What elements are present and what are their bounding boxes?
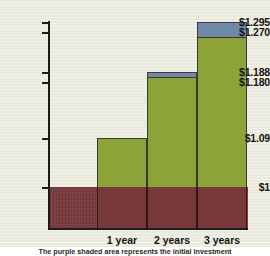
bar-3-years[interactable]	[197, 22, 247, 228]
x-tick-label-2-years: 2 years	[147, 234, 197, 246]
bar-1-year-growth-segment	[97, 138, 147, 188]
y-tick-label-109: $1.09	[228, 133, 270, 143]
y-tick-mark-109	[42, 138, 49, 140]
bar-1-year-initial-segment	[97, 187, 147, 228]
y-tick-mark-1270	[42, 32, 49, 34]
bar-3-years-growth-segment	[197, 37, 247, 188]
x-tick-label-1-year: 1 year	[97, 234, 147, 246]
y-tick-label-1: $1	[228, 182, 270, 192]
y-axis-line	[48, 21, 50, 230]
y-tick-label-1180: $1.180	[228, 77, 270, 87]
investment-growth-chart: $1.295 $1.270 $1.188 $1.180 $1.09 $1 1 y…	[0, 0, 270, 256]
y-tick-mark-1295	[42, 22, 49, 24]
chart-caption: The purple shaded area represents the in…	[0, 247, 270, 256]
bar-3-years-initial-segment	[197, 187, 247, 228]
bar-1-year[interactable]	[97, 138, 147, 228]
y-tick-label-1270: $1.270	[228, 27, 270, 37]
y-tick-mark-1180	[42, 82, 49, 84]
y-tick-mark-1188	[42, 72, 49, 74]
x-tick-label-3-years: 3 years	[197, 234, 247, 246]
bar-2-years-initial-segment	[147, 187, 197, 228]
bar-2-years-growth-segment	[147, 77, 197, 188]
x-axis-line	[48, 228, 248, 230]
bar-2-years[interactable]	[147, 72, 197, 228]
y-tick-mark-1	[42, 187, 49, 189]
